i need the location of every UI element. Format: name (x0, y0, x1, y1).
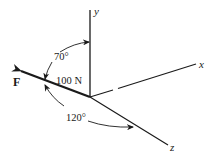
z-axis-label: z (169, 141, 175, 153)
force-magnitude-label: 100 N (56, 75, 82, 86)
x-axis (90, 64, 196, 97)
angle-label-70: 70° (54, 51, 69, 62)
angle-arc-120 (45, 85, 133, 127)
y-axis-label: y (93, 5, 99, 17)
force-vector-diagram: y x z F 100 N 70° 120° (0, 0, 218, 159)
angle-label-120: 120° (66, 112, 86, 123)
z-axis (90, 97, 168, 145)
force-label: F (13, 75, 20, 89)
x-axis-label: x (198, 58, 204, 70)
